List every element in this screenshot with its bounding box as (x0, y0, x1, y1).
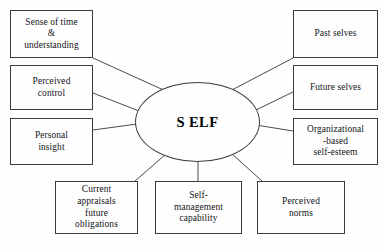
node-label-sense-of-time: Sense of time & understanding (22, 17, 80, 52)
diagram-canvas: S ELF Sense of time & understanding Perc… (0, 0, 385, 252)
node-self-management-capability[interactable]: Self- management capability (155, 181, 242, 234)
node-perceived-norms[interactable]: Perceived norms (257, 181, 345, 234)
node-past-selves[interactable]: Past selves (293, 10, 378, 58)
node-label-future-selves: Future selves (308, 82, 363, 94)
node-label-perceived-norms: Perceived norms (280, 196, 322, 219)
node-perceived-control[interactable]: Perceived control (10, 65, 93, 110)
node-future-selves[interactable]: Future selves (293, 65, 378, 110)
node-sense-of-time[interactable]: Sense of time & understanding (10, 10, 93, 58)
node-personal-insight[interactable]: Personal insight (10, 118, 93, 165)
node-label-perceived-control: Perceived control (31, 76, 73, 99)
link-perceived-norms (231, 153, 262, 181)
link-organizational-based-self-esteem (256, 125, 293, 131)
node-label-organizational-based-self-esteem: Organizational -based self-esteem (305, 124, 366, 159)
node-label-personal-insight: Personal insight (33, 130, 70, 153)
node-current-appraisals[interactable]: Current appraisals future obligations (55, 181, 138, 234)
node-label-current-appraisals: Current appraisals future obligations (73, 184, 120, 230)
link-current-appraisals (135, 154, 166, 181)
center-node-label: S ELF (175, 114, 221, 130)
link-past-selves (230, 58, 293, 91)
node-organizational-based-self-esteem[interactable]: Organizational -based self-esteem (293, 118, 378, 165)
link-perceived-control (93, 93, 139, 111)
center-node-self[interactable]: S ELF (135, 82, 260, 162)
node-label-self-management-capability: Self- management capability (172, 190, 225, 225)
link-sense-of-time (93, 58, 168, 92)
node-label-past-selves: Past selves (313, 28, 359, 40)
link-personal-insight (93, 124, 137, 130)
link-future-selves (256, 92, 293, 110)
